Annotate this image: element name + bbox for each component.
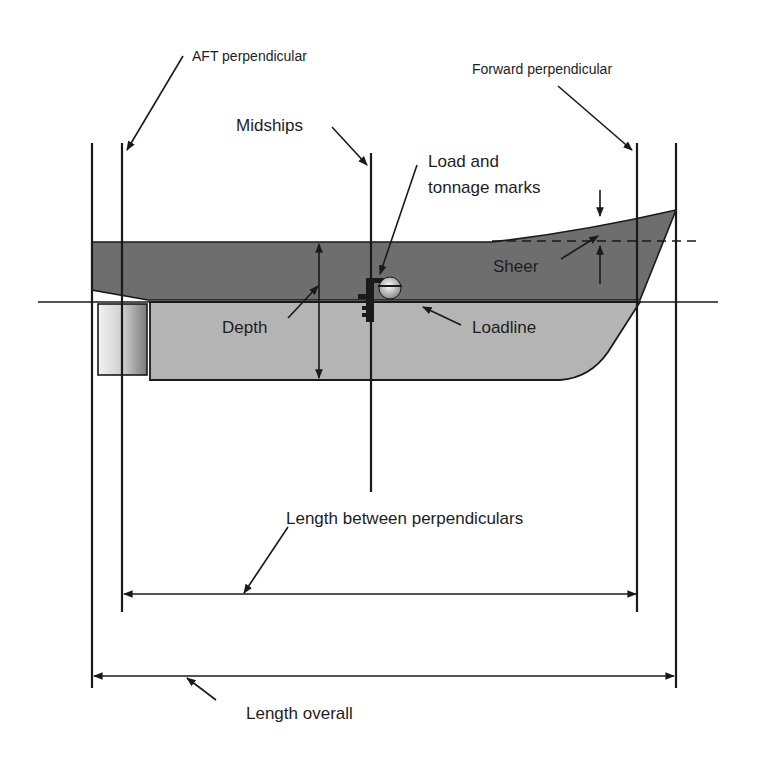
aft-perp-leader [127, 56, 183, 150]
midships-label: Midships [236, 116, 303, 135]
load-marks-label-2: tonnage marks [428, 178, 540, 197]
sheer-label: Sheer [493, 257, 539, 276]
lower-hull [150, 302, 640, 380]
lbp-label: Length between perpendiculars [286, 509, 523, 528]
forward-perpendicular-label: Forward perpendicular [472, 61, 612, 77]
depth-label: Depth [222, 318, 267, 337]
ship-dimensions-diagram: AFT perpendicular Forward perpendicular … [0, 0, 758, 758]
loa-leader [187, 678, 216, 700]
load-marks-label-1: Load and [428, 152, 499, 171]
loadline-label: Loadline [472, 318, 536, 337]
lbp-leader [244, 527, 288, 593]
aft-perpendicular-label: AFT perpendicular [192, 48, 307, 64]
fwd-perp-leader [558, 86, 632, 150]
midships-leader [332, 127, 367, 165]
loa-label: Length overall [246, 704, 353, 723]
